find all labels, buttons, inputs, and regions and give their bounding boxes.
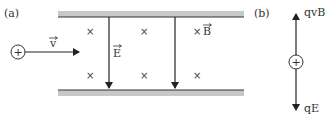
top-plate: [58, 11, 244, 17]
plus-icon: +: [13, 46, 22, 59]
panel-a: (a) E B × × × × × × +: [4, 7, 244, 96]
plus-icon: +: [291, 56, 300, 69]
bottom-plate: [58, 90, 244, 96]
electric-force-label: qE: [304, 102, 319, 115]
magnetic-field-label: B: [203, 24, 212, 39]
field-into-page-icon: ×: [193, 26, 201, 37]
velocity-label: v: [49, 37, 58, 51]
panel-b: (b) + qvB qE: [254, 6, 325, 115]
field-into-page-icon: ×: [140, 26, 148, 37]
field-into-page-icon: ×: [86, 70, 94, 81]
field-into-page-icon: ×: [193, 70, 201, 81]
svg-text:E: E: [113, 47, 121, 60]
magnetic-force-label: qvB: [304, 6, 325, 19]
svg-text:B: B: [203, 25, 211, 38]
field-into-page-icon: ×: [86, 26, 94, 37]
panel-a-label: (a): [4, 7, 19, 20]
electric-field-label: E: [113, 45, 122, 61]
svg-text:v: v: [49, 37, 57, 50]
panel-b-label: (b): [254, 7, 270, 20]
positive-charge-b: +: [289, 55, 303, 69]
velocity-selector-diagram: (a) E B × × × × × × +: [0, 0, 328, 118]
positive-charge-a: +: [11, 45, 25, 59]
field-into-page-icon: ×: [140, 70, 148, 81]
